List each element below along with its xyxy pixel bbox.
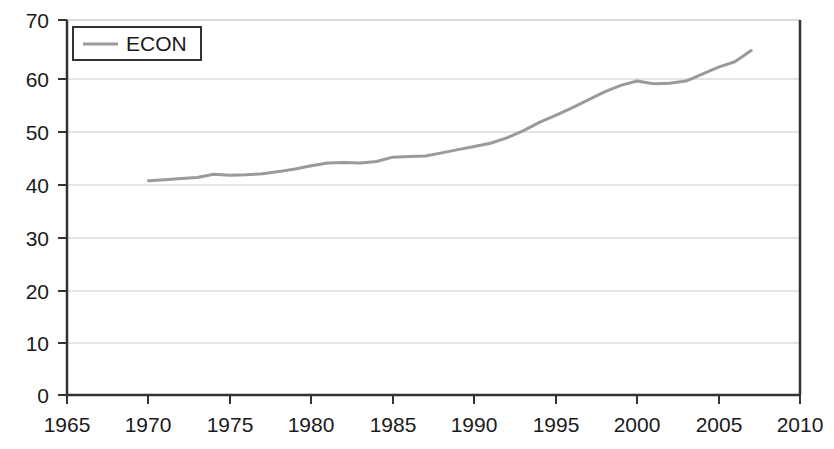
y-axis-labels: 70 60 50 40 30 20 10 0 (26, 9, 49, 407)
y-axis-label-20: 20 (26, 280, 49, 303)
x-axis-label-1995: 1995 (533, 413, 580, 436)
chart-container: 70 60 50 40 30 20 10 0 1965 1970 1975 19… (0, 0, 834, 449)
x-axis-labels: 1965 1970 1975 1980 1985 1990 1995 2000 … (44, 413, 824, 436)
x-axis-label-1975: 1975 (207, 413, 254, 436)
y-axis-label-0: 0 (37, 384, 49, 407)
y-axis-label-60: 60 (26, 68, 49, 91)
x-tick-marks (67, 395, 800, 404)
y-axis-label-10: 10 (26, 332, 49, 355)
x-axis-label-1970: 1970 (125, 413, 172, 436)
chart-legend[interactable]: ECON (73, 27, 201, 60)
legend-label-econ: ECON (126, 32, 187, 55)
line-chart: 70 60 50 40 30 20 10 0 1965 1970 1975 19… (0, 0, 834, 449)
x-axis-label-1990: 1990 (451, 413, 498, 436)
y-axis-label-70: 70 (26, 9, 49, 32)
x-axis-label-1985: 1985 (370, 413, 417, 436)
x-axis-label-2010: 2010 (777, 413, 824, 436)
y-tick-marks (58, 20, 67, 395)
x-axis-label-2000: 2000 (614, 413, 661, 436)
y-axis-label-50: 50 (26, 121, 49, 144)
x-axis-label-2005: 2005 (696, 413, 743, 436)
y-axis-label-30: 30 (26, 227, 49, 250)
x-axis-label-1965: 1965 (44, 413, 91, 436)
y-axis-label-40: 40 (26, 174, 49, 197)
plot-background (67, 20, 800, 395)
x-axis-label-1980: 1980 (288, 413, 335, 436)
